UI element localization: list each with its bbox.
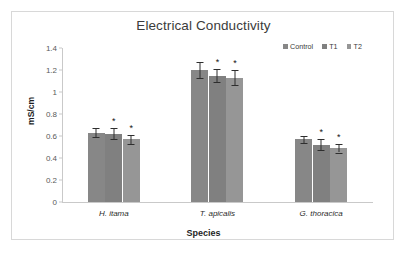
error-bar-cap <box>300 136 307 137</box>
error-bar-cap <box>231 85 238 86</box>
bar-group-bars: ** <box>269 48 373 202</box>
error-bar-cap <box>335 144 342 145</box>
x-axis-label: Species <box>0 228 407 238</box>
error-bar-cap <box>128 144 135 145</box>
bar[interactable] <box>313 145 330 202</box>
significance-marker: * <box>216 58 220 67</box>
error-bar-cap <box>214 69 221 70</box>
bar-group: **T. apicalis <box>166 48 270 202</box>
x-axis-category-label: T. apicalis <box>200 209 235 218</box>
bar-group: **H. itama <box>62 48 166 202</box>
error-bar-cap <box>318 150 325 151</box>
error-bar-cap <box>214 82 221 83</box>
error-bar <box>131 135 132 144</box>
bar-slot: * <box>313 48 330 202</box>
bar-slot: * <box>105 48 122 202</box>
error-bar-cap <box>196 78 203 79</box>
chart-title: Electrical Conductivity <box>0 18 407 33</box>
error-bar-cap <box>110 139 117 140</box>
x-axis-line <box>62 202 373 203</box>
bar-group-bars: ** <box>62 48 166 202</box>
bar-slot <box>295 48 312 202</box>
error-bar-cap <box>110 128 117 129</box>
error-bar <box>217 69 218 82</box>
bar-slot <box>191 48 208 202</box>
x-axis-category-label: G. thoracica <box>300 209 343 218</box>
bar-slot <box>88 48 105 202</box>
error-bar-cap <box>196 62 203 63</box>
error-bar <box>321 139 322 150</box>
bar[interactable] <box>191 70 208 202</box>
error-bar-cap <box>318 139 325 140</box>
bar[interactable] <box>330 148 347 202</box>
error-bar <box>338 144 339 153</box>
bar[interactable] <box>88 133 105 202</box>
significance-marker: * <box>233 59 237 68</box>
error-bar-cap <box>300 143 307 144</box>
chart-figure: Electrical Conductivity ControlT1T2 mS/c… <box>0 0 407 253</box>
bar-slot: * <box>123 48 140 202</box>
x-axis-category-label: H. itama <box>99 209 129 218</box>
error-bar-cap <box>231 70 238 71</box>
bar[interactable] <box>123 139 140 202</box>
bar-group: **G. thoracica <box>269 48 373 202</box>
y-axis-label: mS/cm <box>26 97 36 125</box>
bar[interactable] <box>295 139 312 202</box>
significance-marker: * <box>337 133 341 142</box>
significance-marker: * <box>130 124 134 133</box>
bar-slot: * <box>209 48 226 202</box>
bar-group-bars: ** <box>166 48 270 202</box>
bar[interactable] <box>226 78 243 202</box>
error-bar <box>199 62 200 77</box>
bar[interactable] <box>105 134 122 202</box>
error-bar <box>96 128 97 137</box>
plot-area: 00.20.40.60.811.21.4**H. itama**T. apica… <box>62 48 373 202</box>
error-bar-cap <box>335 153 342 154</box>
significance-marker: * <box>319 128 323 137</box>
bar[interactable] <box>209 76 226 203</box>
bar-slot: * <box>226 48 243 202</box>
bar-slot: * <box>330 48 347 202</box>
error-bar <box>234 70 235 85</box>
significance-marker: * <box>112 117 116 126</box>
error-bar-cap <box>93 128 100 129</box>
error-bar-cap <box>128 135 135 136</box>
error-bar-cap <box>93 137 100 138</box>
error-bar <box>113 128 114 139</box>
